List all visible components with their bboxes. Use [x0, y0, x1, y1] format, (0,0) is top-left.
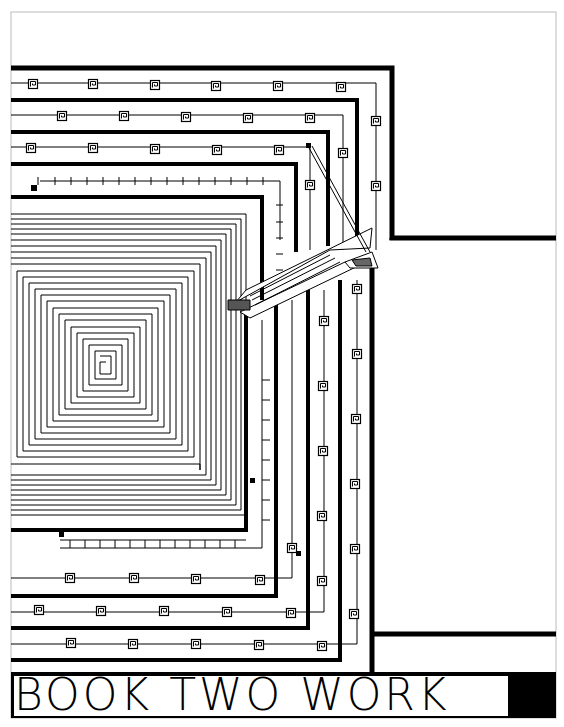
greek-key-row-3: [27, 144, 315, 190]
meander-frame: [11, 68, 556, 672]
cover-illustration: [0, 0, 564, 727]
concentric-square-spiral: [11, 214, 246, 515]
book-title: BOOK TWO WORK: [14, 672, 508, 719]
greek-key-row-2: [58, 112, 348, 158]
